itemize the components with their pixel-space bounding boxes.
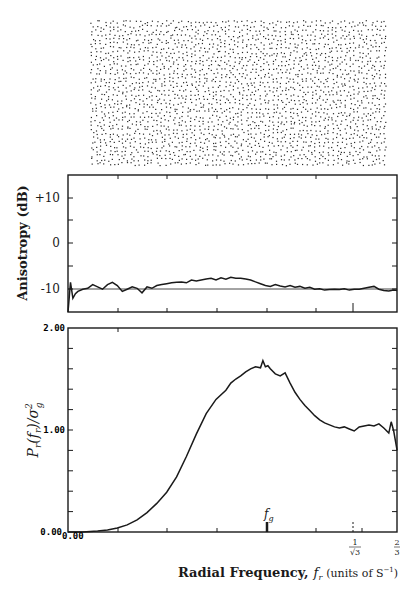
power-spectrum-panel: 2.00 1.00 0.00 0.00 fg 1 √3 2 3 Pr(fr)/σ… (24, 323, 400, 582)
power-spectrum-axis-label: Pr(fr)/σ2g (24, 402, 44, 458)
fg-label: fg (263, 507, 274, 523)
anisotropy-panel: +10 0 -10 Anisotropy (dB) (15, 175, 397, 312)
tick-sqrt3-numerator: 1 (352, 538, 357, 547)
tick-sqrt3-denominator: √3 (350, 548, 360, 557)
tick-label-0: 0 (52, 236, 60, 250)
figure: +10 0 -10 Anisotropy (dB) 2.00 1.00 0.00… (0, 0, 414, 590)
tick-23-denominator: 3 (394, 548, 399, 557)
tick-label-1: 1.00 (43, 425, 65, 435)
dot-pattern-panel (90, 20, 387, 166)
tick-label-2: 2.00 (43, 323, 65, 333)
anisotropy-axis-label: Anisotropy (dB) (15, 185, 30, 302)
tick-23-numerator: 2 (394, 538, 399, 547)
anisotropy-curve (68, 277, 397, 312)
anisotropy-frame (68, 175, 397, 312)
tick-label-0-x: 0.00 (62, 531, 84, 541)
power-spectrum-ticks (68, 328, 397, 532)
power-spectrum-curve (68, 361, 397, 532)
power-spectrum-frame (68, 328, 397, 532)
tick-label-plus10: +10 (35, 191, 60, 205)
x-axis-label: Radial Frequency,fr(units of S−1) (178, 565, 398, 582)
tick-label-0-y: 0.00 (40, 527, 62, 537)
tick-label-minus10: -10 (41, 282, 60, 296)
anisotropy-ticks (68, 175, 397, 312)
